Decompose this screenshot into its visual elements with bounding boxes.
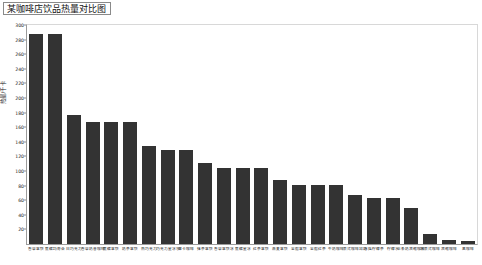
y-axis-tick-label: 80	[0, 183, 24, 188]
y-axis-tick-mark	[24, 141, 26, 142]
bar-slot	[198, 25, 212, 244]
bar	[404, 208, 418, 244]
chart-container: 某咖啡店饮品热量对比图 热量/千卡 3002802602402202001801…	[0, 0, 482, 265]
bar-slot	[348, 25, 362, 244]
y-axis-tick-label: 300	[0, 23, 24, 28]
y-axis-tick-mark	[24, 39, 26, 40]
bar-slot	[142, 25, 156, 244]
bar	[311, 185, 325, 244]
bar-slot	[404, 25, 418, 244]
y-axis-tick-label: 60	[0, 198, 24, 203]
bar	[236, 168, 250, 244]
bar-slot	[311, 25, 325, 244]
y-axis-tick-mark	[24, 127, 26, 128]
y-axis-tick-label: 280	[0, 37, 24, 42]
y-axis-tick-mark	[24, 25, 26, 26]
bar	[329, 185, 343, 244]
y-axis-tick-mark	[24, 171, 26, 172]
bar	[104, 122, 118, 244]
bar	[273, 180, 287, 244]
bar	[48, 34, 62, 244]
bar	[123, 122, 137, 244]
bar	[386, 198, 400, 244]
bar	[442, 240, 456, 244]
y-axis-tick-mark	[24, 200, 26, 201]
bar	[161, 150, 175, 244]
y-axis-tick-label: 140	[0, 139, 24, 144]
bar	[142, 146, 156, 244]
bar-slot	[179, 25, 193, 244]
y-axis-tick-mark	[24, 83, 26, 84]
bar	[86, 122, 100, 244]
bar-slot	[329, 25, 343, 244]
bar-slot	[367, 25, 381, 244]
y-axis-tick-label: 200	[0, 96, 24, 101]
y-axis-tick-mark	[24, 98, 26, 99]
y-axis-tick-label: 240	[0, 66, 24, 71]
bar	[292, 185, 306, 244]
bar-slot	[292, 25, 306, 244]
bar	[254, 168, 268, 244]
y-axis-tick-mark	[24, 214, 26, 215]
bar-slot	[29, 25, 43, 244]
bar-slot	[86, 25, 100, 244]
y-axis-tick-label: 260	[0, 52, 24, 57]
bar-slot	[386, 25, 400, 244]
y-axis-tick-label: 180	[0, 110, 24, 115]
chart-title: 某咖啡店饮品热量对比图	[3, 2, 111, 15]
y-axis-tick-label: 40	[0, 212, 24, 217]
y-axis-tick-mark	[24, 156, 26, 157]
bar-slot	[67, 25, 81, 244]
bar-slot	[161, 25, 175, 244]
bar-slot	[442, 25, 456, 244]
y-axis-tick-mark	[24, 112, 26, 113]
bar	[348, 195, 362, 244]
bar	[367, 198, 381, 244]
bar	[29, 34, 43, 244]
bar	[198, 163, 212, 244]
bar	[179, 150, 193, 244]
bar	[217, 168, 231, 244]
y-axis-tick-label: 220	[0, 81, 24, 86]
bar	[67, 115, 81, 244]
bar-slot	[254, 25, 268, 244]
y-axis-tick-label: 120	[0, 154, 24, 159]
x-axis-labels: 香草拿铁焦糖玛奇朵白巧克力香草奶昔咖啡焦糖拿铁奶茶拿铁热巧克力巧克力星冰乐摩卡咖…	[27, 247, 477, 261]
y-axis-tick-label: 160	[0, 125, 24, 130]
y-axis-tick-mark	[24, 229, 26, 230]
bar-slot	[273, 25, 287, 244]
bar-slot	[217, 25, 231, 244]
y-axis-tick-label: 100	[0, 169, 24, 174]
bar-slot	[423, 25, 437, 244]
y-axis-tick-label: 20	[0, 227, 24, 232]
bars-layer	[27, 25, 477, 244]
bar	[423, 234, 437, 244]
bar-slot	[461, 25, 475, 244]
y-axis-tick-mark	[24, 68, 26, 69]
x-axis-tick-label: 黑咖啡	[454, 247, 482, 252]
bar-slot	[104, 25, 118, 244]
bar	[461, 241, 475, 244]
y-axis-tick-mark	[24, 185, 26, 186]
y-axis-tick-mark	[24, 54, 26, 55]
bar-slot	[48, 25, 62, 244]
bar-slot	[123, 25, 137, 244]
bar-slot	[236, 25, 250, 244]
